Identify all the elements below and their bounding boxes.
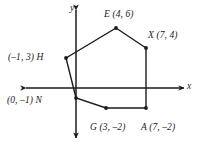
vertex-label-g: G (3, –2): [90, 123, 125, 133]
polygon-exagnh: [66, 28, 146, 108]
vertex-label-h: (–1, 3) H: [8, 53, 43, 63]
y-axis-label: y: [70, 4, 74, 14]
vertex-point-e: [114, 26, 118, 30]
vertex-point-a: [144, 106, 148, 110]
vertex-label-e: E (4, 6): [104, 10, 134, 20]
x-axis-label: x: [187, 82, 191, 92]
vertex-label-n: (0, –1) N: [7, 96, 42, 106]
vertex-point-n: [74, 96, 78, 100]
vertex-label-x: X (7, 4): [148, 31, 178, 41]
coordinate-plane-figure: y x E (4, 6) X (7, 4) (–1, 3) H (0, –1) …: [0, 0, 199, 144]
vertex-label-a: A (7, –2): [141, 123, 175, 133]
vertex-point-h: [64, 56, 68, 60]
vertex-point-x: [144, 46, 148, 50]
vertex-point-g: [104, 106, 108, 110]
